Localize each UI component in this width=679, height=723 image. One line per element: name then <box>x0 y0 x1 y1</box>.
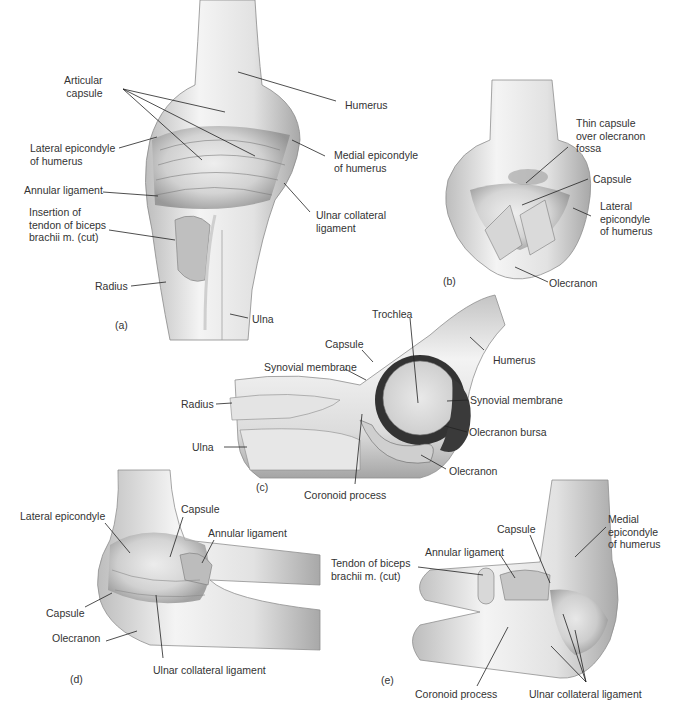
label-line: Humerus <box>493 354 536 367</box>
label-line: Annular ligament <box>24 184 103 197</box>
label-line: Lateral epicondyle <box>20 510 105 523</box>
label-line: Capsule <box>46 607 85 620</box>
label-ulna-c: Ulna <box>192 441 214 454</box>
label-articular-capsule: Articular capsule <box>64 74 103 99</box>
label-line: Synovial membrane <box>264 361 357 374</box>
label-coronoid-process-c: Coronoid process <box>304 489 386 502</box>
label-lateral-epicondyle-of-humerus: Lateral epicondyle of humerus <box>30 142 115 167</box>
label-line: Annular ligament <box>425 546 504 559</box>
panel-e-drawing <box>413 480 619 678</box>
label-annular-ligament-e: Annular ligament <box>425 546 504 559</box>
label-capsule-b: Capsule <box>593 173 632 186</box>
label-line: of humerus <box>608 538 661 551</box>
label-ulnar-collateral-ligament-e: Ulnar collateral ligament <box>529 688 642 701</box>
label-humerus-c: Humerus <box>493 354 536 367</box>
label-line: capsule <box>64 87 103 100</box>
label-line: epicondyle <box>608 526 661 539</box>
label-line: Olecranon bursa <box>469 426 547 439</box>
label-annular-ligament: Annular ligament <box>24 184 103 197</box>
label-line: fossa <box>576 142 645 155</box>
label-capsule-c: Capsule <box>325 338 364 351</box>
label-capsule-d-top: Capsule <box>181 503 220 516</box>
label-lateral-epicondyle-of-humerus-b: Lateral epicondyle of humerus <box>600 200 653 238</box>
label-line: Ulnar collateral ligament <box>529 688 642 701</box>
panel-d-drawing <box>98 470 320 650</box>
label-annular-ligament-d: Annular ligament <box>208 527 287 540</box>
label-line: Olecranon <box>52 632 100 645</box>
panel-a-drawing <box>145 0 300 340</box>
panel-tag-c: (c) <box>256 481 268 493</box>
label-line: Capsule <box>325 338 364 351</box>
label-line: Radius <box>181 398 214 411</box>
label-capsule-e: Capsule <box>497 523 536 536</box>
label-capsule-d-bottom: Capsule <box>46 607 85 620</box>
label-line: over olecranon <box>576 130 645 143</box>
label-line: Capsule <box>497 523 536 536</box>
label-line: Radius <box>95 280 128 293</box>
label-line: Insertion of <box>29 206 106 219</box>
panel-tag-b: (b) <box>443 275 456 287</box>
label-line: Tendon of biceps <box>331 557 410 570</box>
label-line: Thin capsule <box>576 117 645 130</box>
label-lateral-epicondyle-d: Lateral epicondyle <box>20 510 105 523</box>
label-line: Ulnar collateral <box>316 209 386 222</box>
label-line: Ulnar collateral ligament <box>153 664 266 677</box>
label-line: ligament <box>316 222 386 235</box>
label-line: of humerus <box>30 155 115 168</box>
panel-tag-d: (d) <box>70 673 83 685</box>
label-line: Coronoid process <box>415 688 497 701</box>
label-line: epicondyle <box>600 213 653 226</box>
label-line: of humerus <box>334 162 418 175</box>
label-olecranon-b: Olecranon <box>549 277 597 290</box>
label-line: Lateral <box>600 200 653 213</box>
label-line: tendon of biceps <box>29 219 106 232</box>
label-ulna: Ulna <box>252 313 274 326</box>
label-radius: Radius <box>95 280 128 293</box>
label-line: Synovial membrane <box>470 394 563 407</box>
label-ulnar-collateral-ligament-d: Ulnar collateral ligament <box>153 664 266 677</box>
label-ulnar-collateral-ligament: Ulnar collateral ligament <box>316 209 386 234</box>
label-synovial-membrane-c-left: Synovial membrane <box>264 361 357 374</box>
label-line: Ulna <box>252 313 274 326</box>
label-line: Coronoid process <box>304 489 386 502</box>
label-line: of humerus <box>600 225 653 238</box>
label-line: brachii m. (cut) <box>29 231 106 244</box>
panel-tag-a: (a) <box>115 319 128 331</box>
label-line: Ulna <box>192 441 214 454</box>
label-line: Annular ligament <box>208 527 287 540</box>
label-line: Olecranon <box>449 465 497 478</box>
label-line: Trochlea <box>372 308 412 321</box>
label-line: Humerus <box>345 99 388 112</box>
label-line: Medial <box>608 513 661 526</box>
label-tendon-of-biceps-e: Tendon of biceps brachii m. (cut) <box>331 557 410 582</box>
label-line: brachii m. (cut) <box>331 570 410 583</box>
label-olecranon-d: Olecranon <box>52 632 100 645</box>
label-thin-capsule-over-olecranon-fossa: Thin capsule over olecranon fossa <box>576 117 645 155</box>
label-insertion-of-tendon-of-biceps: Insertion of tendon of biceps brachii m.… <box>29 206 106 244</box>
label-olecranon-bursa: Olecranon bursa <box>469 426 547 439</box>
elbow-joint-figure: Articular capsule Lateral epicondyle of … <box>0 0 679 723</box>
label-olecranon-c: Olecranon <box>449 465 497 478</box>
label-radius-c: Radius <box>181 398 214 411</box>
panel-tag-e: (e) <box>381 674 394 686</box>
label-coronoid-process-e: Coronoid process <box>415 688 497 701</box>
label-humerus: Humerus <box>345 99 388 112</box>
label-line: Capsule <box>593 173 632 186</box>
label-trochlea: Trochlea <box>372 308 412 321</box>
label-line: Capsule <box>181 503 220 516</box>
panel-b-drawing <box>446 80 591 279</box>
label-synovial-membrane-c-right: Synovial membrane <box>470 394 563 407</box>
label-medial-epicondyle-of-humerus: Medial epicondyle of humerus <box>334 149 418 174</box>
label-line: Medial epicondyle <box>334 149 418 162</box>
label-line: Articular <box>64 74 103 87</box>
label-line: Lateral epicondyle <box>30 142 115 155</box>
label-line: Olecranon <box>549 277 597 290</box>
label-medial-epicondyle-of-humerus-e: Medial epicondyle of humerus <box>608 513 661 551</box>
